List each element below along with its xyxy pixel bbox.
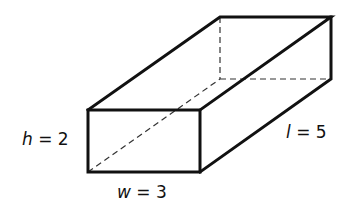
front-face (88, 110, 200, 172)
length-label: l = 5 (286, 122, 327, 142)
box-diagram (0, 0, 353, 210)
height-label: h = 2 (22, 129, 69, 149)
width-label: w = 3 (117, 182, 167, 202)
top-face-edges (88, 17, 331, 110)
